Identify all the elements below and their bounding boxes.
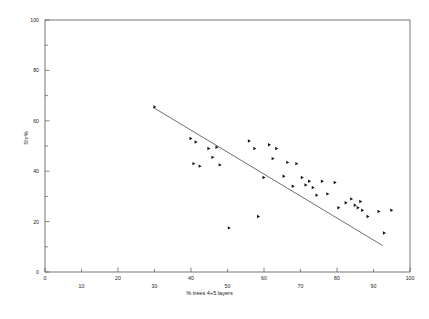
data-point bbox=[275, 147, 278, 150]
data-point bbox=[248, 139, 251, 142]
data-point bbox=[286, 161, 289, 164]
data-point bbox=[304, 183, 307, 186]
x-tick-label-10: 10 bbox=[79, 283, 85, 289]
x-tick-label-100: 100 bbox=[406, 275, 415, 281]
data-point bbox=[295, 162, 298, 165]
data-point bbox=[263, 176, 266, 179]
data-point bbox=[301, 176, 304, 179]
data-point bbox=[345, 201, 348, 204]
data-point bbox=[350, 197, 353, 200]
y-tick-label-20: 20 bbox=[33, 219, 39, 225]
y-axis-title: Shr% bbox=[23, 131, 29, 145]
y-tick-label-0: 0 bbox=[36, 269, 39, 275]
x-tick-label-60: 60 bbox=[261, 275, 267, 281]
y-tick-label-80: 80 bbox=[33, 67, 39, 73]
data-point bbox=[383, 231, 386, 234]
data-point bbox=[321, 180, 324, 183]
data-point bbox=[359, 200, 362, 203]
scatter-plot-figure: 0204060801000204060801001030507090% tree… bbox=[0, 0, 429, 319]
x-tick-label-90: 90 bbox=[371, 283, 377, 289]
data-point bbox=[199, 164, 202, 167]
x-tick-label-30: 30 bbox=[152, 283, 158, 289]
data-point bbox=[334, 181, 337, 184]
data-point bbox=[190, 137, 193, 140]
data-point bbox=[367, 215, 370, 218]
data-point bbox=[211, 156, 214, 159]
x-tick-label-70: 70 bbox=[298, 283, 304, 289]
x-tick-label-50: 50 bbox=[225, 283, 231, 289]
data-point bbox=[219, 163, 222, 166]
data-point bbox=[195, 140, 198, 143]
data-point bbox=[315, 193, 318, 196]
data-point bbox=[377, 210, 380, 213]
data-point bbox=[361, 209, 364, 212]
data-point bbox=[283, 175, 286, 178]
x-tick-label-80: 80 bbox=[334, 275, 340, 281]
data-point bbox=[312, 186, 315, 189]
data-point bbox=[337, 206, 340, 209]
y-tick-label-40: 40 bbox=[33, 168, 39, 174]
data-point bbox=[207, 147, 210, 150]
data-point bbox=[257, 215, 260, 218]
data-point bbox=[292, 185, 295, 188]
x-tick-label-40: 40 bbox=[188, 275, 194, 281]
x-axis-title: % trees 4+5 layers bbox=[186, 290, 233, 296]
data-point bbox=[308, 180, 311, 183]
x-tick-label-0: 0 bbox=[44, 275, 47, 281]
data-point bbox=[357, 206, 360, 209]
data-point bbox=[354, 204, 357, 207]
plot-frame bbox=[45, 20, 410, 272]
data-point bbox=[326, 192, 329, 195]
data-point bbox=[390, 209, 393, 212]
y-tick-label-60: 60 bbox=[33, 118, 39, 124]
x-tick-label-20: 20 bbox=[115, 275, 121, 281]
y-tick-label-100: 100 bbox=[30, 17, 39, 23]
data-point bbox=[192, 162, 195, 165]
regression-line bbox=[155, 108, 383, 245]
data-point bbox=[268, 143, 271, 146]
plot-canvas: 0204060801000204060801001030507090% tree… bbox=[0, 0, 429, 319]
data-point bbox=[253, 147, 256, 150]
data-point bbox=[272, 157, 275, 160]
data-point bbox=[228, 226, 231, 229]
